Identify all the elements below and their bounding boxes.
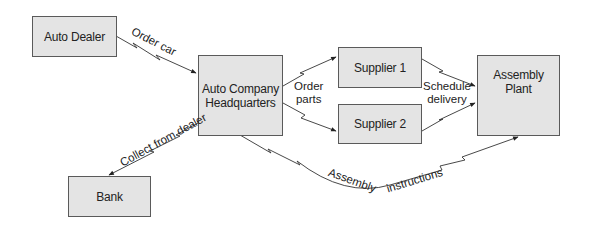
auto-dealer-node: Auto Dealer [32, 16, 117, 57]
bank-node: Bank [68, 176, 151, 217]
supplier-2-node: Supplier 2 [338, 104, 422, 144]
assembly-plant-node: Assembly Plant [477, 55, 560, 136]
assembly-plant-label: Assembly Plant [493, 68, 543, 96]
supplier-2-label: Supplier 2 [354, 117, 406, 131]
supplier-1-label: Supplier 1 [354, 61, 406, 75]
hq-node: Auto Company Headquarters [198, 55, 283, 136]
schedule-delivery-label: Schedule delivery [423, 80, 471, 106]
schedule-delivery-arrow-2 [422, 103, 475, 131]
supplier-1-node: Supplier 1 [338, 47, 422, 88]
hq-label: Auto Company Headquarters [202, 82, 279, 110]
bank-label: Bank [96, 190, 123, 204]
auto-dealer-label: Auto Dealer [44, 30, 105, 44]
order-parts-label: Order parts [294, 80, 323, 106]
order-parts-arrow-2 [283, 103, 336, 131]
